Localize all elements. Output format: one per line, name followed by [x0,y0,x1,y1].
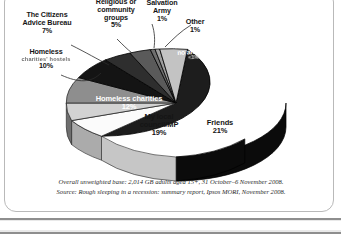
label-other: Other 1% [173,18,217,34]
label-council: My local council/MP 19% [127,113,191,137]
depth-family-front [176,139,245,181]
leader-religious [117,39,132,53]
label-friends: Friends 21% [190,119,250,135]
footnote-base: Overall unweighted base: 2,014 GB adults… [15,177,327,187]
footnote-source: Source: Rough sleeping in a recession: s… [15,187,327,197]
label-homeless-charities: Homeless charities 12% [83,95,175,111]
chart-card: The Citizens Advice Bureau 7% Homeless c… [4,0,334,212]
label-family-relatives: Family/relatives 57% [217,76,319,92]
depth-friends [102,136,177,181]
screenshot-root: The Citizens Advice Bureau 7% Homeless c… [0,0,341,234]
page-bottom-strip [0,218,341,234]
page-bottom-strip-inner2 [0,221,341,230]
chart-footnote: Overall unweighted base: 2,014 GB adults… [15,177,327,197]
label-hostels: Homeless charities' hostels 10% [13,48,79,70]
label-citizens-advice-bureau: The Citizens Advice Bureau 7% [11,11,83,34]
